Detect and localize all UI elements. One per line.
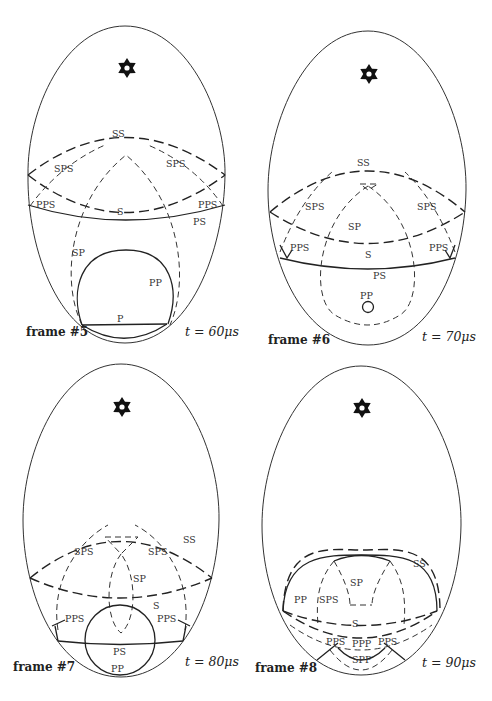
label-sp: SP <box>348 221 362 232</box>
star-icon <box>118 58 135 78</box>
wave-ps <box>58 641 183 645</box>
label-pp: PP <box>111 663 124 674</box>
label-s: S <box>352 618 359 629</box>
frame-6-panel: SS SPS SPS SP PPS PPS S PS PP frame #6 t… <box>268 31 476 347</box>
star-icon <box>353 398 370 418</box>
label-s: S <box>153 600 160 611</box>
frame-label: frame #8 <box>255 661 317 675</box>
wave-pps-right-tick <box>178 620 190 641</box>
label-ps: PS <box>113 646 126 657</box>
wave-sps-left <box>280 172 332 252</box>
star-icon <box>113 397 130 417</box>
time-label: t = 60μs <box>185 324 239 339</box>
label-sps-right: SPS <box>417 201 436 212</box>
wave-sp-cusp <box>105 537 138 554</box>
wave-pp <box>363 302 374 313</box>
label-sps-left: SPS <box>305 201 324 212</box>
wave-sp <box>71 155 179 325</box>
wave-sp-top <box>334 556 390 562</box>
label-pps-right: PPS <box>429 242 448 253</box>
frame-5-panel: SS SPS SPS PPS PPS S PS SP PP P frame #5… <box>26 26 239 343</box>
frame-7-panel: SPS SPS SS SP S PPS PPS PS PP frame #7 t… <box>13 364 239 677</box>
wave-ss <box>30 542 212 579</box>
label-ps: PS <box>193 216 206 227</box>
wave-sps-right <box>148 145 223 206</box>
wave-sps-right <box>405 172 455 252</box>
label-pps-right: PPS <box>198 199 217 210</box>
label-ss: SS <box>357 157 370 168</box>
label-pps-right: PPS <box>157 613 176 624</box>
label-sp: SP <box>350 577 364 588</box>
wave-s <box>270 212 465 244</box>
wave-pps-lower <box>283 611 437 638</box>
label-s: S <box>117 206 124 217</box>
label-sps: SPS <box>319 594 338 605</box>
wave-sps <box>317 561 404 625</box>
frame-label: frame #7 <box>13 660 75 674</box>
label-ss: SS <box>183 534 196 545</box>
time-label: t = 90μs <box>422 655 476 670</box>
wave-s <box>283 611 437 626</box>
label-spp: SPP <box>352 654 372 665</box>
label-pp: PP <box>360 290 373 301</box>
label-pp: PP <box>294 594 307 605</box>
label-pp: PP <box>149 277 162 288</box>
label-p: P <box>117 313 124 324</box>
label-ps: PS <box>373 270 386 281</box>
wave-s <box>28 175 225 213</box>
label-sps-right: SPS <box>148 546 167 557</box>
label-sps-right: SPS <box>166 158 185 169</box>
wave-sps-left <box>30 145 105 206</box>
label-pps-left: PPS <box>36 199 55 210</box>
label-pps-left: PPS <box>326 636 345 647</box>
wavefront-figure: SS SPS SPS PPS PPS S PS SP PP P frame #5… <box>0 0 492 701</box>
label-sps-left: SPS <box>74 546 93 557</box>
label-pps-right: PPS <box>378 636 397 647</box>
label-sps-left: SPS <box>54 163 73 174</box>
time-label: t = 70μs <box>422 329 476 344</box>
wave-pps-left-tick <box>52 620 65 641</box>
frame-label: frame #5 <box>26 325 88 339</box>
label-pps-left: PPS <box>290 242 309 253</box>
frame-8-panel: SS SP PP SPS S PPS PPP PPS SPP frame #8 … <box>255 366 476 675</box>
label-s: S <box>365 249 372 260</box>
wave-p <box>82 324 167 325</box>
time-label: t = 80μs <box>185 654 239 669</box>
label-sp: SP <box>133 573 147 584</box>
label-ss: SS <box>413 558 426 569</box>
frame-label: frame #6 <box>268 333 330 347</box>
label-pps-left: PPS <box>65 613 84 624</box>
star-icon <box>360 64 377 84</box>
wave-sp <box>109 554 133 633</box>
label-ss: SS <box>112 128 125 139</box>
label-ppp: PPP <box>352 638 372 649</box>
label-sp: SP <box>72 247 86 258</box>
